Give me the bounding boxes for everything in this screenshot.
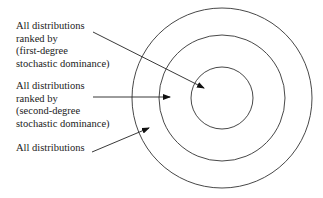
label-line: (second-degree bbox=[16, 105, 110, 118]
label-all-distributions: All distributions bbox=[16, 142, 85, 155]
label-second-degree: All distributions ranked by (second-degr… bbox=[16, 80, 110, 130]
arrow-all-distributions bbox=[92, 128, 149, 152]
label-first-degree: All distributions ranked by (first-degre… bbox=[16, 20, 110, 70]
inner-circle bbox=[191, 67, 253, 129]
label-line: ranked by bbox=[16, 93, 110, 106]
middle-circle bbox=[159, 35, 285, 161]
label-line: stochastic dominance) bbox=[16, 58, 110, 71]
label-line: stochastic dominance) bbox=[16, 118, 110, 131]
label-line: ranked by bbox=[16, 33, 110, 46]
label-line: All distributions bbox=[16, 20, 110, 33]
label-line: (first-degree bbox=[16, 45, 110, 58]
label-line: All distributions bbox=[16, 80, 110, 93]
label-line: All distributions bbox=[16, 142, 85, 155]
